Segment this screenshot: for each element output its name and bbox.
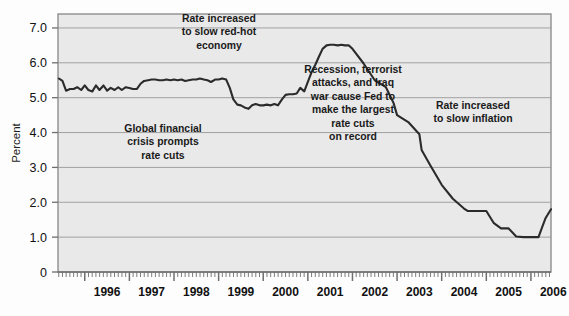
annotation-line: war cause Fed to xyxy=(310,91,395,102)
x-tick-label-2002: 2002 xyxy=(361,285,388,299)
x-tick-label-1999: 1999 xyxy=(228,285,255,299)
annotation-line: rate cuts xyxy=(331,118,375,129)
annotation-line: Rate increased xyxy=(182,13,256,24)
y-tick-label-1: 1.0 xyxy=(30,231,47,245)
x-tick-label-2005: 2005 xyxy=(495,285,522,299)
annotation-line: Rate increased xyxy=(436,100,510,111)
annotation-line: on record xyxy=(329,131,377,142)
annotation-line: attacks, and Iraq xyxy=(312,77,394,88)
y-axis-title: Percent xyxy=(10,122,22,162)
x-tick-label-2006: 2006 xyxy=(540,285,567,299)
x-axis-labels: 1996199719981999200020012002200320042005… xyxy=(94,285,567,299)
annotation-line: economy xyxy=(196,40,242,51)
y-tick-label-4: 4.0 xyxy=(30,126,47,140)
x-tick-label-2004: 2004 xyxy=(451,285,478,299)
y-tick-label-2: 2.0 xyxy=(30,196,47,210)
y-tick-label-0: 0 xyxy=(40,266,47,280)
annotation-line: rate cuts xyxy=(141,150,185,161)
y-tick-label-7: 7.0 xyxy=(30,21,47,35)
x-tick-label-2001: 2001 xyxy=(317,285,344,299)
y-tick-label-6: 6.0 xyxy=(30,56,47,70)
annotation-line: crisis prompts xyxy=(127,136,199,147)
annotation-line: to slow inflation xyxy=(433,113,512,124)
annotation-line: to slow red-hot xyxy=(182,26,257,37)
x-tick-label-1996: 1996 xyxy=(94,285,121,299)
fed-funds-rate-chart: 01.02.03.04.05.06.07.0 19961997199819992… xyxy=(0,0,569,316)
chart-canvas: 01.02.03.04.05.06.07.0 19961997199819992… xyxy=(0,0,569,316)
y-tick-label-3: 3.0 xyxy=(30,161,47,175)
x-tick-label-2000: 2000 xyxy=(272,285,299,299)
annotation-line: make the largest xyxy=(312,104,395,115)
x-tick-label-1998: 1998 xyxy=(183,285,210,299)
y-tick-label-5: 5.0 xyxy=(30,91,47,105)
x-tick-label-1997: 1997 xyxy=(138,285,165,299)
x-tick-label-2003: 2003 xyxy=(406,285,433,299)
annotation-line: Global financial xyxy=(124,123,201,134)
annotation-line: Recession, terrorist xyxy=(304,64,402,75)
